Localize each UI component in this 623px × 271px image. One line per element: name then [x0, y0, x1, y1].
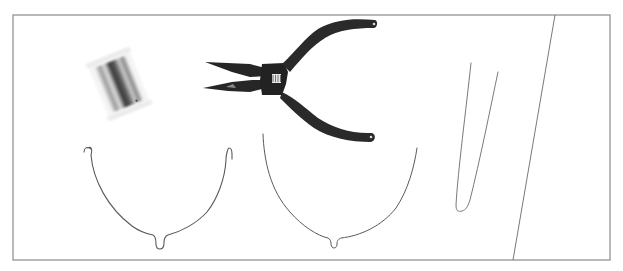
tools-illustration [0, 0, 623, 271]
diagonal-line [513, 15, 555, 260]
spring-icon [272, 74, 281, 83]
wire-shape-open-icon [263, 134, 417, 248]
frame-border [13, 15, 610, 260]
wire-shape-v-icon [456, 63, 498, 211]
wire-shape-hooked-icon [84, 147, 232, 249]
pliers-icon [203, 19, 377, 142]
illustration-canvas [0, 0, 623, 271]
wire-spool-icon [85, 46, 153, 121]
